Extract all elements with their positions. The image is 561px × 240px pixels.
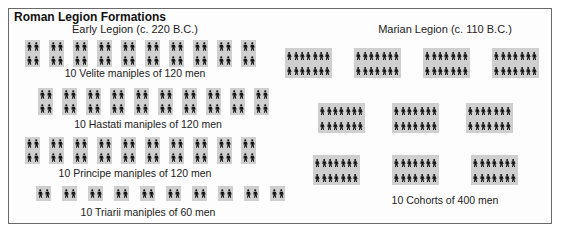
soldier-icon [105,138,112,149]
figure-line [50,138,63,149]
soldier-icon [324,50,330,62]
soldier-icon [238,89,245,100]
triarii-row [36,186,285,201]
soldier-icon [214,103,221,114]
unit-block [166,186,181,201]
early-legion-heading: Early Legion (c. 220 B.C.) [72,23,198,35]
principe-caption: 10 Principe maniples of 120 men [59,167,212,179]
figure-line [37,188,50,199]
figure-line [111,89,124,100]
soldier-icon [33,41,40,52]
unit-block [145,40,160,67]
figure-line [355,50,399,62]
figure-line [115,188,128,199]
triarii-caption: 10 Triarii maniples of 60 men [81,206,216,218]
marian-legion-heading: Marian Legion (c. 110 B.C.) [378,23,512,35]
soldier-icon [174,188,181,199]
figure-line [146,138,159,149]
figure-line [26,55,39,66]
soldier-icon [166,89,173,100]
unit-block [466,103,513,133]
figure-line [135,103,148,114]
soldier-icon [357,105,363,117]
figure-line [26,41,39,52]
figure-line [319,105,363,117]
figure-line [63,89,76,100]
figure-line [98,41,111,52]
figure-line [207,103,220,114]
soldier-icon [510,172,516,184]
soldier-icon [225,138,232,149]
figure-line [50,152,63,163]
figure-line [194,152,207,163]
soldier-icon [142,103,149,114]
figure-line [170,55,183,66]
figure-line [218,41,231,52]
cohorts-caption: 10 Cohorts of 400 men [392,194,499,206]
soldier-icon [177,55,184,66]
soldier-icon [94,103,101,114]
soldier-icon [153,41,160,52]
soldier-icon [122,188,129,199]
figure-line [74,55,87,66]
figure-line [218,138,231,149]
figure-line [122,41,135,52]
soldier-icon [352,172,358,184]
unit-block [192,186,207,201]
figure-line [393,120,437,132]
figure-line [146,55,159,66]
soldier-icon [166,103,173,114]
figure-line [167,188,180,199]
soldier-icon [94,89,101,100]
cohort-row-3 [313,155,518,185]
figure-line [255,89,268,100]
soldier-icon [81,55,88,66]
soldier-icon [262,89,269,100]
soldier-icon [431,157,437,169]
unit-block [38,88,53,115]
unit-block [25,137,40,164]
figure-line [141,188,154,199]
soldier-icon [177,138,184,149]
soldier-icon [153,152,160,163]
soldier-icon [153,55,160,66]
soldier-icon [46,103,53,114]
unit-block [182,88,197,115]
soldier-icon [462,50,468,62]
unit-block [244,186,259,201]
unit-block [354,48,401,78]
unit-block [217,40,232,67]
unit-block [62,88,77,115]
soldier-icon [105,41,112,52]
figure-line [467,105,511,117]
hastati-caption: 10 Hastati maniples of 120 men [74,118,222,130]
soldier-icon [177,41,184,52]
unit-block [73,137,88,164]
figure-line [493,50,537,62]
unit-block [217,137,232,164]
figure-line [271,188,284,199]
soldier-icon [44,188,51,199]
figure-line [207,89,220,100]
figure-line [122,55,135,66]
soldier-icon [105,55,112,66]
figure-line [286,50,330,62]
unit-block [318,103,365,133]
figure-line [424,50,468,62]
velite-caption: 10 Velite maniples of 120 men [65,67,206,79]
soldier-icon [225,41,232,52]
soldier-icon [33,55,40,66]
soldier-icon [357,120,363,132]
figure-line [122,138,135,149]
figure-line [242,55,255,66]
cohort-row-2 [318,103,513,133]
soldier-icon [70,89,77,100]
figure-line [50,55,63,66]
unit-block [313,155,360,185]
figure-line [170,41,183,52]
figure-line [89,188,102,199]
soldier-icon [105,152,112,163]
figure-line [146,152,159,163]
figure-line [467,120,511,132]
figure-line [219,188,232,199]
